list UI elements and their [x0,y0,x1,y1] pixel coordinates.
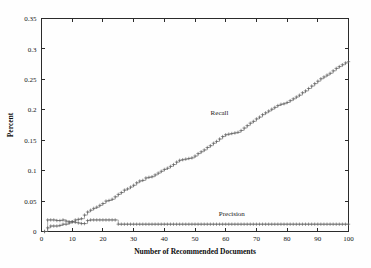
data-point-marker [344,223,347,226]
data-point-marker [227,132,230,135]
data-point-marker [160,223,163,226]
data-point-marker [123,223,126,226]
x-axis-title: Number of Recommended Documents [134,247,256,256]
data-point-marker [49,218,52,221]
data-point-marker [89,218,92,221]
data-point-marker [242,126,245,129]
data-point-marker [110,218,113,221]
data-point-marker [239,223,242,226]
data-point-marker [295,223,298,226]
data-point-marker [86,210,89,213]
data-point-marker [273,223,276,226]
data-point-marker [120,191,123,194]
data-point-marker [249,223,252,226]
chart-figure: 010203040506070809010000.050.10.150.20.2… [0,0,371,268]
data-point-marker [126,223,129,226]
data-point-marker [301,223,304,226]
data-point-marker [279,223,282,226]
data-point-marker [215,140,218,143]
data-point-marker [138,179,141,182]
data-point-marker [209,223,212,226]
y-tick-label: 0.25 [24,76,37,84]
x-tick-label: 70 [253,235,261,243]
step-line [45,62,349,232]
data-point-marker [64,223,67,226]
data-point-marker [258,115,261,118]
data-point-marker [224,133,227,136]
data-point-marker [144,176,147,179]
data-point-marker [190,156,193,159]
data-point-marker [215,223,218,226]
data-point-marker [86,219,89,222]
data-point-marker [338,65,341,68]
data-point-marker [233,223,236,226]
data-point-marker [230,223,233,226]
data-point-marker [153,223,156,226]
data-point-marker [163,168,166,171]
series-precision [43,218,350,233]
data-point-marker [239,129,242,132]
precision-recall-plot: 010203040506070809010000.050.10.150.20.2… [0,0,371,268]
data-point-marker [101,202,104,205]
data-point-marker [184,157,187,160]
data-point-marker [196,223,199,226]
x-tick-label: 30 [130,235,138,243]
data-point-marker [292,223,295,226]
data-point-marker [83,222,86,225]
data-point-marker [304,89,307,92]
data-series-group [43,60,350,233]
data-point-marker [196,152,199,155]
data-point-marker [98,204,101,207]
data-point-marker [270,107,273,110]
data-point-marker [288,99,291,102]
data-point-marker [203,223,206,226]
data-point-marker [230,132,233,135]
data-point-marker [316,223,319,226]
data-point-marker [181,223,184,226]
data-point-marker [307,223,310,226]
x-tick-label: 60 [222,235,230,243]
data-point-marker [322,223,325,226]
data-point-marker [178,159,181,162]
data-point-marker [261,113,264,116]
data-point-marker [304,223,307,226]
data-point-marker [52,218,55,221]
x-tick-label: 50 [192,235,200,243]
data-point-marker [129,223,132,226]
data-point-marker [273,106,276,109]
data-point-marker [181,158,184,161]
data-point-marker [227,223,230,226]
data-point-marker [89,209,92,212]
data-point-marker [310,223,313,226]
series-label-recall: Recall [211,109,229,117]
data-point-marker [245,223,248,226]
data-point-marker [193,223,196,226]
data-point-marker [282,102,285,105]
data-point-marker [331,69,334,72]
data-point-marker [282,223,285,226]
data-point-marker [150,223,153,226]
data-point-marker [147,176,150,179]
data-point-marker [252,223,255,226]
data-point-marker [117,193,120,196]
data-point-marker [341,63,344,66]
data-point-marker [328,223,331,226]
data-point-marker [218,223,221,226]
y-tick-label: 0.1 [28,167,37,175]
data-point-marker [206,146,209,149]
data-point-marker [218,137,221,140]
data-point-marker [313,82,316,85]
data-point-marker [95,218,98,221]
data-point-marker [276,104,279,107]
data-point-marker [169,165,172,168]
data-point-marker [187,223,190,226]
data-point-marker [224,223,227,226]
data-point-marker [113,218,116,221]
axes-group [42,19,349,232]
data-point-marker [258,223,261,226]
data-point-marker [319,77,322,80]
data-point-marker [267,223,270,226]
data-point-marker [184,223,187,226]
data-point-marker [285,223,288,226]
data-point-marker [172,223,175,226]
